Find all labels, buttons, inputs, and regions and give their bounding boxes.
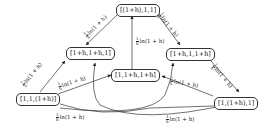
node-left-lower: [1,1,(1+h)] bbox=[16, 93, 60, 106]
node-center: [1,1+h,1+h] bbox=[111, 69, 160, 82]
edge-left-lower-to-right-lower bbox=[60, 104, 214, 112]
label-left-lower-to-right-lower-a: 1hln(1 + h) bbox=[56, 113, 84, 122]
node-top: [(1+h),1,1] bbox=[116, 4, 160, 17]
node-right-lower: [1,(1+h),1] bbox=[214, 97, 258, 110]
label-center-to-top: 1hln(1 + h) bbox=[136, 37, 164, 46]
node-right-upper: [1+h,1,1+h] bbox=[166, 48, 215, 61]
node-left-upper: [1+h,1+h,1] bbox=[66, 47, 115, 60]
label-left-lower-to-right-lower-b: 1hln(1 + h) bbox=[166, 115, 194, 124]
